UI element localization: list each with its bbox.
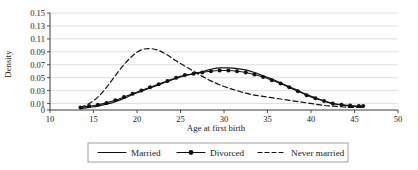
series-marker-divorced <box>244 70 248 74</box>
series-line-divorced <box>80 70 363 107</box>
gridlines <box>50 13 398 104</box>
y-tick-label: 0.15 <box>30 8 45 18</box>
legend-label-divorced: Divorced <box>210 148 245 158</box>
series-line-married <box>80 68 363 109</box>
series-marker-divorced <box>361 104 365 108</box>
legend-label-married: Married <box>131 148 161 158</box>
y-tick-label: 0.05 <box>30 73 45 83</box>
y-tick-labels: 00.010.030.050.070.090.110.130.15 <box>30 8 45 115</box>
series-married <box>80 68 363 109</box>
series-marker-divorced <box>226 69 230 73</box>
density-chart-figure: 00.010.030.050.070.090.110.130.15 101520… <box>0 0 418 170</box>
x-axis <box>50 110 398 113</box>
legend-label-never-married: Never married <box>291 148 345 158</box>
x-tick-label: 45 <box>350 114 359 124</box>
x-tick-label: 20 <box>133 114 142 124</box>
legend-marker-divorced <box>189 150 194 155</box>
series-marker-divorced <box>235 69 239 73</box>
x-tick-label: 40 <box>307 114 316 124</box>
y-tick-label: 0.09 <box>30 47 45 57</box>
y-tick-label: 0.03 <box>30 86 45 96</box>
chart-canvas: 00.010.030.050.070.090.110.130.15 101520… <box>0 0 418 170</box>
x-tick-label: 35 <box>263 114 272 124</box>
y-axis-title: Density <box>3 50 13 78</box>
series-marker-divorced <box>218 69 222 73</box>
x-tick-label: 50 <box>394 114 403 124</box>
x-axis-title: Age at first birth <box>187 123 246 133</box>
x-tick-label: 10 <box>46 114 55 124</box>
y-tick-label: 0.13 <box>30 21 45 31</box>
y-tick-label: 0.01 <box>30 99 45 109</box>
y-tick-label: 0.07 <box>30 60 45 70</box>
x-tick-label: 25 <box>176 114 185 124</box>
x-tick-label: 15 <box>89 114 98 124</box>
y-tick-label: 0.11 <box>30 34 45 44</box>
legend: MarriedDivorcedNever married <box>88 143 348 162</box>
y-axis <box>47 13 50 110</box>
